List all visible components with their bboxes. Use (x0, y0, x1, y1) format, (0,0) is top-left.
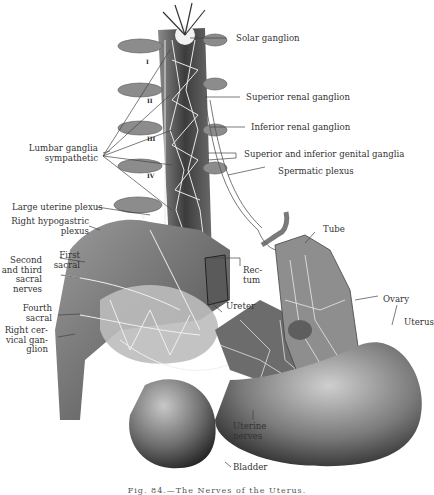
vertebra-numeral-2: II (147, 97, 153, 104)
label-uterine-nerves: Uterine nerves (233, 422, 266, 441)
label-genital-ganglia: Superior and inferior genital ganglia (244, 150, 404, 160)
label-fourth-sacral: Fourth sacral (23, 304, 52, 323)
label-large-uterine-plexus: Large uterine plexus (12, 203, 103, 213)
label-tube: Tube (323, 225, 345, 235)
label-first-sacral: First sacral (54, 251, 80, 270)
label-spermatic-plexus: Spermatic plexus (278, 167, 354, 177)
label-lumbar-ganglia: Lumbar ganglia sympathetic (29, 144, 98, 163)
label-right-cervical-ganglion: Right cer- vical gan- glion (5, 326, 48, 355)
label-rectum: Rec- tum (243, 266, 262, 285)
label-ovary: Ovary (383, 295, 409, 305)
label-ureter: Ureter (226, 302, 255, 312)
label-second-third-sacral-nerves: Second and third sacral nerves (2, 256, 42, 294)
label-right-hypogastric-plexus: Right hypogastric plexus (11, 217, 89, 236)
vertebra-numeral-1: I (146, 58, 149, 65)
label-uterus: Uterus (404, 318, 434, 328)
figure-caption: Fig. 84.—The Nerves of the Uterus. (0, 486, 434, 495)
label-superior-renal-ganglion: Superior renal ganglion (246, 93, 350, 103)
label-inferior-renal-ganglion: Inferior renal ganglion (251, 123, 350, 133)
label-solar-ganglion: Solar ganglion (236, 34, 300, 44)
label-bladder: Bladder (233, 463, 267, 473)
vertebra-numeral-4: IV (147, 172, 154, 179)
vertebra-numeral-5: V (141, 213, 146, 220)
vertebra-numeral-3: III (147, 135, 155, 142)
